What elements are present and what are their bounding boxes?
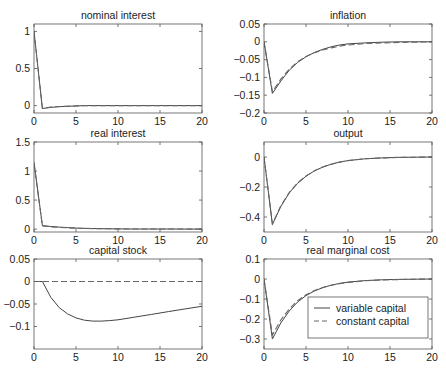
axes-box [34,142,202,232]
x-tick-label: 0 [31,351,37,363]
y-tick-label: −0.15 [233,89,260,101]
x-tick-label: 10 [342,351,354,363]
subplot-real-marginal-cost: real marginal cost051015200.10−0.1−0.2−0… [239,244,438,363]
y-tick-label: −0.05 [3,298,30,310]
y-tick-label: 0.1 [245,253,260,265]
x-tick-label: 20 [426,115,438,127]
impulse-response-figure: nominal interest0510152000.51inflation05… [0,0,446,373]
x-tick-label: 10 [112,351,124,363]
x-tick-label: 5 [303,351,309,363]
y-tick-label: −0.05 [233,53,260,65]
y-tick-label: 0 [24,99,30,111]
x-tick-label: 0 [31,115,37,127]
subplot-title: real marginal cost [307,244,390,256]
legend-entry: variable capital [336,302,406,314]
x-tick-label: 15 [154,115,166,127]
y-tick-label: −0.3 [239,333,260,345]
axes-box [264,142,432,232]
axes-box [34,24,202,113]
series-variable-capital [34,162,202,229]
x-tick-label: 5 [73,351,79,363]
y-tick-label: −0.1 [239,293,260,305]
y-tick-label: 0 [254,273,260,285]
series-variable-capital [264,157,432,225]
x-tick-label: 10 [112,115,124,127]
x-tick-label: 0 [261,115,267,127]
y-tick-label: 1 [24,25,30,37]
axes-box [34,259,202,349]
subplot-output: output051015200−0.2−0.4 [239,127,438,246]
y-tick-label: 0.05 [240,18,261,30]
subplot-title: inflation [330,9,366,21]
x-tick-label: 0 [31,234,37,246]
y-tick-label: 1.5 [15,136,30,148]
x-tick-label: 20 [196,115,208,127]
y-tick-label: 0 [254,35,260,47]
series-variable-capital [34,282,202,322]
series-variable-capital [264,42,432,94]
subplot-title: output [333,127,362,139]
y-tick-label: −0.2 [239,107,260,119]
subplot-inflation: inflation051015200.050−0.05−0.1−0.15−0.2 [233,9,438,127]
y-tick-label: 0.5 [15,194,30,206]
x-tick-label: 5 [303,115,309,127]
y-tick-label: −0.1 [9,320,30,332]
y-tick-label: −0.2 [239,181,260,193]
y-tick-label: 0.5 [15,62,30,74]
series-constant-capital [34,164,202,230]
subplot-real-interest: real interest0510152000.511.5 [15,127,208,246]
subplot-nominal-interest: nominal interest0510152000.51 [15,9,208,127]
y-tick-label: 0 [254,151,260,163]
series-constant-capital [264,157,432,224]
y-tick-label: 0.05 [10,253,31,265]
series-constant-capital [264,42,432,92]
x-tick-label: 20 [426,351,438,363]
axes-box [264,24,432,113]
legend: variable capitalconstant capital [308,297,428,338]
y-tick-label: 0 [24,223,30,235]
x-tick-label: 5 [73,115,79,127]
y-tick-label: −0.1 [239,71,260,83]
x-tick-label: 15 [384,115,396,127]
y-tick-label: 1 [24,165,30,177]
x-tick-label: 20 [196,351,208,363]
subplot-capital-stock: capital stock051015200.050−0.05−0.1 [3,244,208,363]
legend-entry: constant capital [336,315,409,327]
x-tick-label: 15 [384,351,396,363]
x-tick-label: 0 [261,234,267,246]
y-tick-label: −0.4 [239,211,260,223]
series-constant-capital [34,31,202,108]
y-tick-label: 0 [24,275,30,287]
subplot-title: capital stock [89,244,148,256]
x-tick-label: 20 [426,234,438,246]
series-variable-capital [34,31,202,108]
x-tick-label: 20 [196,234,208,246]
x-tick-label: 15 [154,234,166,246]
x-tick-label: 0 [261,351,267,363]
x-tick-label: 15 [154,351,166,363]
subplot-title: real interest [91,127,146,139]
x-tick-label: 5 [73,234,79,246]
subplot-title: nominal interest [81,9,155,21]
x-tick-label: 10 [342,115,354,127]
y-tick-label: −0.2 [239,313,260,325]
